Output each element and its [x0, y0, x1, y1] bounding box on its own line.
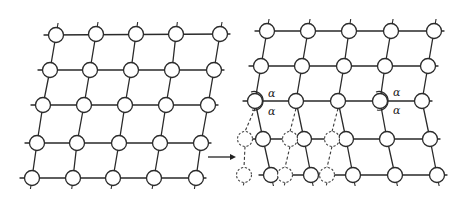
original-atom-node — [30, 136, 45, 151]
original-atom-node — [83, 63, 98, 78]
original-lattice — [20, 22, 230, 189]
ghost-column-bond — [290, 109, 296, 132]
ghost-bottom-stub — [243, 183, 244, 188]
sheared-atom-node — [421, 59, 436, 74]
original-atom-node — [159, 98, 174, 113]
sheared-atom-node — [264, 168, 279, 183]
original-atom-node — [124, 63, 139, 78]
original-atom-node — [49, 28, 64, 43]
diagram-canvas: α α α α — [0, 0, 466, 203]
sheared-atom-node — [260, 24, 275, 39]
original-atom-node — [189, 171, 204, 186]
lattice-figure: α α α α — [0, 0, 466, 203]
transform-arrow — [208, 154, 236, 160]
original-atom-node — [70, 136, 85, 151]
angle-label-upper-right: α — [393, 86, 401, 99]
sheared-atom-node — [297, 132, 312, 147]
arrow-head-icon — [230, 154, 236, 160]
sheared-atom-node — [427, 24, 442, 39]
sheared-atom-node — [384, 24, 399, 39]
original-atom-node — [207, 63, 222, 78]
angle-label-lower-left: α — [268, 105, 276, 118]
ghost-column-bond — [327, 147, 332, 168]
original-atom-node — [169, 27, 184, 42]
sheared-lattice — [237, 19, 448, 187]
ghost-column-bond — [285, 147, 290, 168]
ghost-atom-node — [320, 168, 335, 183]
ghost-bottom-stub — [326, 183, 327, 188]
sheared-atom-node — [301, 24, 316, 39]
sheared-atom-node — [248, 94, 263, 109]
sheared-atom-node — [289, 94, 304, 109]
original-atom-node — [129, 27, 144, 42]
sheared-atom-node — [304, 168, 319, 183]
sheared-atom-node — [339, 132, 354, 147]
sheared-atom-node — [342, 24, 357, 39]
ghost-column-bond — [245, 109, 255, 132]
sheared-atom-node — [423, 132, 438, 147]
ghost-column-bond — [332, 109, 338, 132]
ghost-bottom-stub — [284, 183, 285, 188]
original-atom-node — [25, 171, 40, 186]
sheared-atom-node — [378, 59, 393, 74]
sheared-atom-node — [388, 168, 403, 183]
ghost-atom-node — [237, 168, 252, 183]
original-atom-node — [118, 98, 133, 113]
sheared-atom-node — [346, 168, 361, 183]
original-atom-node — [194, 136, 209, 151]
sheared-atom-node — [256, 132, 271, 147]
ghost-atom-node — [283, 132, 298, 147]
sheared-atom-node — [254, 59, 269, 74]
original-atom-node — [153, 136, 168, 151]
sheared-atom-node — [430, 168, 445, 183]
original-atom-node — [165, 63, 180, 78]
angle-label-lower-right: α — [393, 104, 401, 117]
original-atom-node — [213, 27, 228, 42]
ghost-atom-node — [325, 132, 340, 147]
original-atom-node — [201, 98, 216, 113]
ghost-atom-node — [238, 132, 253, 147]
angle-label-upper-left: α — [268, 87, 276, 100]
ghost-column-bond — [244, 147, 245, 168]
original-atom-node — [77, 98, 92, 113]
original-atom-node — [43, 63, 58, 78]
original-atom-node — [112, 136, 127, 151]
original-atom-node — [147, 171, 162, 186]
sheared-atom-node — [337, 59, 352, 74]
sheared-atom-node — [415, 94, 430, 109]
original-atom-node — [36, 98, 51, 113]
sheared-atom-node — [331, 94, 346, 109]
sheared-atom-node — [380, 132, 395, 147]
original-atom-node — [66, 171, 81, 186]
original-atom-node — [106, 171, 121, 186]
sheared-atom-node — [373, 94, 388, 109]
ghost-atom-node — [278, 168, 293, 183]
sheared-atom-node — [295, 59, 310, 74]
original-atom-node — [89, 27, 104, 42]
